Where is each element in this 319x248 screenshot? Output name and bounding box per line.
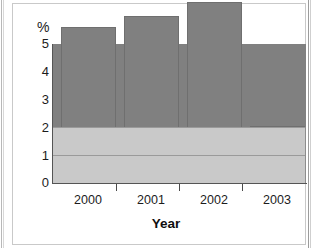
x-tick-label-2001: 2001	[127, 193, 175, 207]
y-axis-line	[52, 44, 53, 184]
bar-series	[53, 44, 306, 127]
page-edge-rule-right-inner	[310, 0, 311, 248]
chart-figure: % 5 4 3 2 1 0	[0, 0, 319, 248]
x-tick-mark-3	[242, 184, 243, 191]
bar-2003[interactable]	[250, 126, 305, 127]
x-axis-title: Year	[13, 216, 319, 231]
page-edge-rule-left	[1, 0, 2, 248]
gridline-2	[53, 127, 306, 128]
figure-frame: % 5 4 3 2 1 0	[12, 3, 306, 245]
y-tick-label-4: 4	[29, 65, 49, 78]
y-tick-label-5: 5	[29, 37, 49, 50]
x-tick-mark-1	[116, 184, 117, 191]
y-axis-ticks: 5 4 3 2 1 0	[26, 4, 49, 248]
plot-area	[53, 44, 306, 183]
x-tick-label-2002: 2002	[190, 193, 238, 207]
bar-2001[interactable]	[124, 16, 179, 127]
page-edge-rule-right	[308, 0, 309, 248]
x-tick-mark-2	[179, 184, 180, 191]
page-edge-rule-left-inner	[3, 0, 4, 248]
x-tick-label-2000: 2000	[64, 193, 112, 207]
y-tick-label-2: 2	[29, 121, 49, 134]
bar-2002[interactable]	[187, 2, 242, 127]
x-tick-label-2003: 2003	[253, 193, 301, 207]
bar-2000[interactable]	[61, 27, 116, 127]
y-tick-label-0: 0	[29, 176, 49, 189]
y-tick-label-1: 1	[29, 149, 49, 162]
y-tick-label-3: 3	[29, 93, 49, 106]
gridline-1	[53, 155, 306, 156]
